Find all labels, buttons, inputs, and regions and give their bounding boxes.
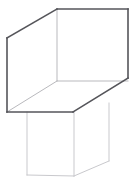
wireframe-figure	[0, 0, 136, 188]
figure-canvas	[0, 0, 136, 188]
